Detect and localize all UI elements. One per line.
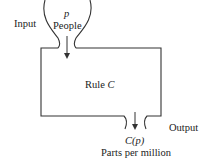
output-label: Output — [169, 123, 198, 134]
rule-label: Rule C — [85, 80, 114, 91]
input-label: Input — [14, 19, 36, 30]
rule-name: C — [107, 79, 114, 90]
input-arrow-icon — [64, 36, 70, 59]
output-function: C(p) — [125, 136, 144, 147]
input-variable: p — [64, 9, 69, 20]
input-unit: People — [53, 21, 82, 32]
output-arrow-icon — [132, 112, 138, 130]
output-unit: Parts per million — [101, 148, 171, 159]
